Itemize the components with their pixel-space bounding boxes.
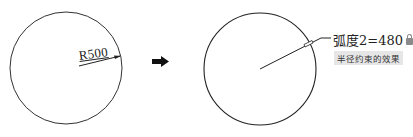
lock-icon — [406, 38, 413, 45]
arc-dimension-label: 弧度2=480 — [333, 30, 413, 49]
left-dimension-arrowhead — [114, 56, 121, 60]
caption-badge: 半径约束的效果 — [334, 51, 403, 65]
arc-dimension-text: 弧度2=480 — [333, 30, 403, 49]
arrow-right-icon — [152, 56, 169, 67]
diagram-canvas — [0, 0, 413, 137]
left-circle — [10, 12, 122, 124]
